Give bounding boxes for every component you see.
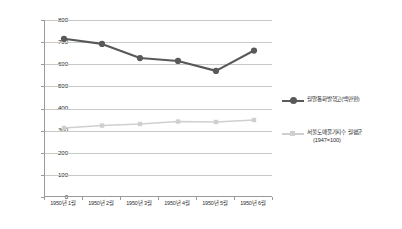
data-point-marker: [252, 118, 256, 122]
x-axis-tick-mark: [44, 197, 45, 200]
x-axis-tick-mark: [158, 197, 159, 200]
data-point-marker: [61, 36, 67, 42]
data-point-marker: [175, 58, 181, 64]
x-axis-tick-label: 1950년 6월: [223, 201, 283, 206]
data-point-marker: [176, 119, 180, 123]
data-point-marker: [214, 120, 218, 124]
data-point-marker: [62, 126, 66, 130]
x-axis-tick-mark: [120, 197, 121, 200]
legend-label-sub: (1947=100): [307, 136, 362, 144]
series-layer: [45, 20, 273, 197]
legend-item[interactable]: 서울도매물가지수 월평균(1947=100): [282, 128, 400, 144]
x-axis-tick-mark: [234, 197, 235, 200]
data-point-marker: [138, 122, 142, 126]
series-line: [64, 39, 254, 71]
legend-swatch-icon: [282, 96, 304, 105]
data-point-marker: [137, 55, 143, 61]
series-line: [64, 120, 254, 128]
legend-label: 월말통화발행고(백만원): [304, 95, 360, 103]
chart-legend: 월말통화발행고(백만원)서울도매물가지수 월평균(1947=100): [282, 95, 400, 144]
data-point-marker: [99, 41, 105, 47]
data-point-marker: [213, 68, 219, 74]
data-point-marker: [100, 123, 104, 127]
plot-area: [44, 20, 272, 197]
x-axis-tick-mark: [82, 197, 83, 200]
x-axis-tick-mark: [272, 197, 273, 200]
x-axis-tick-mark: [196, 197, 197, 200]
legend-item[interactable]: 월말통화발행고(백만원): [282, 95, 400, 105]
legend-label: 서울도매물가지수 월평균(1947=100): [304, 128, 362, 144]
chart-container: 8007006005004003002001000 1950년 1월1950년 …: [0, 0, 402, 229]
data-point-marker: [251, 47, 257, 53]
legend-swatch-icon: [282, 129, 304, 138]
